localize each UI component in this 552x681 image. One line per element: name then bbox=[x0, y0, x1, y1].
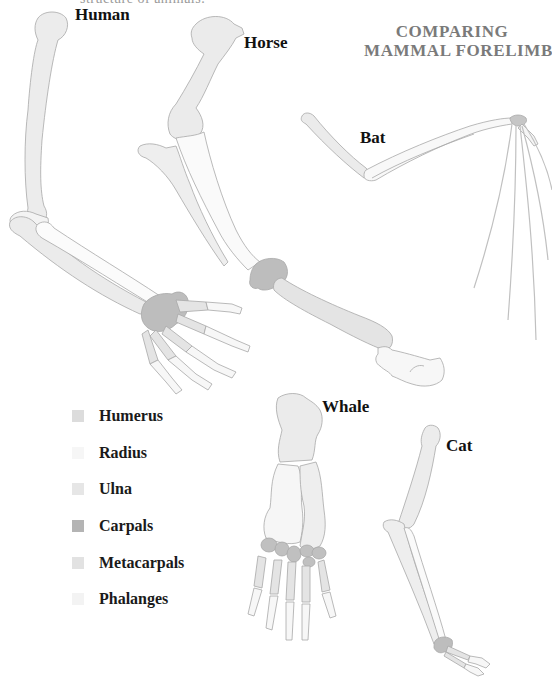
legend-item-ulna: Ulna bbox=[72, 471, 184, 508]
bat-forelimb bbox=[301, 113, 552, 340]
whale-forelimb bbox=[248, 394, 336, 641]
phalanges-swatch bbox=[72, 593, 84, 605]
bat-digits bbox=[474, 124, 552, 340]
bat-forearm bbox=[364, 118, 512, 181]
carpals-swatch bbox=[72, 520, 84, 532]
whale-metacarpals bbox=[254, 556, 330, 602]
legend-item-carpals: Carpals bbox=[72, 508, 184, 545]
bat-humerus bbox=[301, 113, 369, 178]
legend-item-phalanges: Phalanges bbox=[72, 581, 184, 618]
horse-forelimb bbox=[138, 17, 444, 387]
legend-item-metacarpals: Metacarpals bbox=[72, 544, 184, 581]
cat-forelimb bbox=[383, 425, 490, 676]
horse-humerus bbox=[168, 17, 244, 141]
legend-item-humerus: Humerus bbox=[72, 398, 184, 435]
whale-humerus bbox=[276, 394, 322, 463]
legend-label: Ulna bbox=[99, 480, 132, 498]
human-radius bbox=[36, 222, 162, 306]
legend-label: Radius bbox=[99, 444, 147, 462]
human-ulna bbox=[9, 217, 147, 314]
horse-metacarpal bbox=[273, 278, 392, 350]
radius-swatch bbox=[72, 447, 84, 459]
label-cat: Cat bbox=[446, 436, 472, 456]
bone-legend: Humerus Radius Ulna Carpals Metacarpals … bbox=[72, 398, 184, 618]
legend-label: Carpals bbox=[99, 517, 153, 535]
legend-label: Metacarpals bbox=[99, 554, 184, 572]
legend-label: Humerus bbox=[99, 407, 163, 425]
horse-phalanges bbox=[376, 347, 444, 386]
humerus-swatch bbox=[72, 410, 84, 422]
legend-item-radius: Radius bbox=[72, 435, 184, 472]
whale-radius bbox=[264, 464, 303, 544]
label-bat: Bat bbox=[360, 128, 386, 148]
ulna-swatch bbox=[72, 483, 84, 495]
whale-ulna bbox=[300, 462, 325, 549]
metacarpals-swatch bbox=[72, 557, 84, 569]
legend-label: Phalanges bbox=[99, 590, 168, 608]
human-humerus bbox=[25, 12, 68, 224]
label-human: Human bbox=[75, 5, 130, 25]
forelimb-diagram: structure of animals. COMPARING MAMMAL F… bbox=[0, 0, 552, 681]
label-horse: Horse bbox=[244, 33, 287, 53]
cat-humerus bbox=[398, 425, 440, 528]
label-whale: Whale bbox=[322, 397, 369, 417]
